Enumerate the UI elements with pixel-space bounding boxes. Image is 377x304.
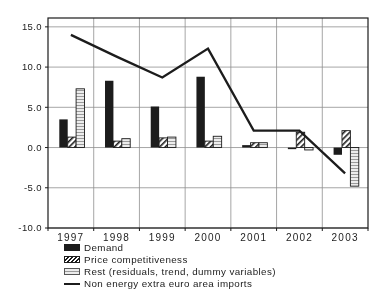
bar-rest-residuals: [213, 136, 221, 147]
bar-demand: [196, 77, 204, 148]
y-tick-label: -5.0: [24, 182, 42, 193]
price-competitiveness-swatch-icon: [64, 256, 80, 263]
x-tick-label: 2003: [332, 232, 359, 243]
legend-label-imports-line: Non energy extra euro area imports: [84, 278, 252, 289]
legend-label-rest: Rest (residuals, trend, dummy variables): [84, 266, 276, 277]
legend-item-rest: Rest (residuals, trend, dummy variables): [64, 266, 276, 278]
bar-demand: [59, 119, 67, 147]
legend-item-imports-line: Non energy extra euro area imports: [64, 278, 276, 290]
legend-item-price-competitiveness: Price competitiveness: [64, 254, 276, 266]
bar-demand: [151, 107, 159, 148]
legend-item-demand: Demand: [64, 242, 276, 254]
legend-label-price-competitiveness: Price competitiveness: [84, 254, 188, 265]
y-tick-label: -10.0: [18, 222, 42, 233]
legend-label-demand: Demand: [84, 242, 123, 253]
bar-demand: [105, 81, 113, 148]
legend: Demand Price competitiveness Rest (resid…: [64, 242, 276, 290]
bar-rest-residuals: [168, 137, 176, 147]
imports-line-swatch-icon: [64, 283, 80, 285]
y-tick-label: 15.0: [22, 21, 42, 32]
chart-figure: 15.010.05.00.0-5.0-10.019971998199920002…: [0, 0, 377, 304]
bar-price-competitiveness: [342, 131, 350, 148]
bar-rest-residuals: [76, 89, 84, 148]
rest-swatch-icon: [64, 268, 80, 275]
demand-swatch-icon: [64, 244, 80, 251]
bar-price-competitiveness: [205, 141, 213, 147]
bar-price-competitiveness: [113, 141, 121, 147]
bar-demand: [334, 148, 342, 155]
bar-rest-residuals: [305, 148, 313, 150]
y-tick-label: 5.0: [28, 102, 42, 113]
bar-rest-residuals: [259, 143, 267, 148]
bar-demand: [288, 148, 296, 150]
y-tick-label: 10.0: [22, 61, 42, 72]
bar-rest-residuals: [350, 148, 358, 187]
bar-price-competitiveness: [159, 138, 167, 148]
y-tick-label: 0.0: [28, 142, 42, 153]
bar-price-competitiveness: [68, 137, 76, 147]
bar-demand: [242, 145, 250, 147]
bar-rest-residuals: [122, 139, 130, 148]
bar-price-competitiveness: [251, 143, 259, 148]
x-tick-label: 2002: [286, 232, 313, 243]
